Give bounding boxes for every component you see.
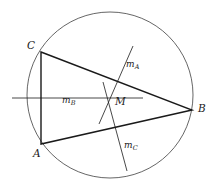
median-label-mA: mA	[126, 60, 139, 69]
centroid-label-M: M	[115, 96, 126, 107]
circumcircle	[27, 12, 193, 178]
vertex-label-B: B	[198, 103, 206, 114]
median-label-mC-subscript: C	[133, 144, 138, 152]
vertex-label-A: A	[33, 148, 41, 159]
median-label-mA-subscript: A	[135, 63, 140, 71]
median-label-mB: mB	[62, 96, 75, 105]
geometry-canvas	[0, 0, 215, 190]
geometry-figure: C A B M mA mB mC	[0, 0, 215, 190]
median-label-mA-base: m	[126, 59, 135, 69]
vertex-label-C: C	[27, 40, 35, 51]
median-label-mC-base: m	[124, 140, 133, 150]
median-label-mB-subscript: B	[71, 99, 76, 107]
median-label-mB-base: m	[62, 95, 71, 105]
median-label-mC: mC	[124, 141, 138, 150]
